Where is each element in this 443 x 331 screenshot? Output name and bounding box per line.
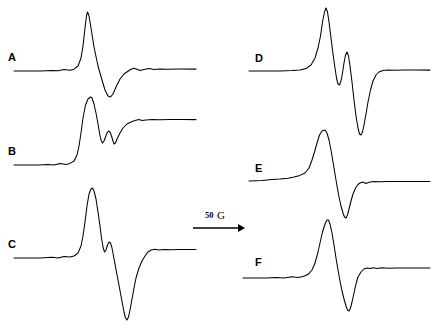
spectrum-trace-c bbox=[14, 188, 196, 320]
scale-bar-value: 50 bbox=[205, 210, 214, 220]
scale-bar-unit: G bbox=[217, 209, 225, 221]
spectrum-panel-b: B bbox=[8, 97, 196, 165]
panel-label-f: F bbox=[255, 256, 262, 268]
panel-label-c: C bbox=[8, 238, 16, 250]
spectrum-trace-f bbox=[243, 220, 430, 311]
panel-label-a: A bbox=[8, 51, 16, 63]
scale-bar-arrow-icon bbox=[238, 224, 245, 232]
spectrum-panel-c: C bbox=[8, 188, 196, 320]
scale-bar: 50 G bbox=[193, 209, 245, 232]
spectrum-trace-d bbox=[249, 8, 430, 135]
panel-label-b: B bbox=[8, 145, 16, 157]
spectrum-trace-a bbox=[14, 12, 196, 97]
panel-label-e: E bbox=[255, 162, 262, 174]
epr-spectra-figure: A B C D E F 50 G bbox=[0, 0, 443, 331]
spectrum-panel-d: D bbox=[249, 8, 430, 135]
spectrum-panel-a: A bbox=[8, 12, 196, 97]
spectrum-panel-e: E bbox=[249, 130, 430, 218]
panel-label-d: D bbox=[255, 52, 263, 64]
spectrum-trace-e bbox=[249, 130, 430, 218]
spectrum-trace-b bbox=[14, 97, 196, 165]
spectrum-panel-f: F bbox=[243, 220, 430, 311]
spectra-canvas: A B C D E F 50 G bbox=[0, 0, 443, 331]
